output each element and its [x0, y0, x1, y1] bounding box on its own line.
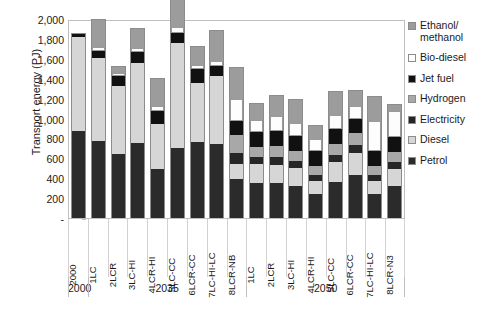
stacked-bar — [308, 125, 323, 219]
legend-label: Electricity — [420, 114, 465, 126]
legend-item: Jet fuel — [408, 73, 491, 85]
bar-segment-diesel — [309, 181, 322, 194]
bar-segment-diesel — [151, 124, 164, 169]
bar-segment-petrol — [72, 131, 85, 218]
bar-segment-hydrogen — [349, 133, 362, 145]
y-axis-tick-label: 600 — [46, 154, 64, 164]
stacked-bar — [269, 95, 284, 218]
x-axis-tick-group: 5LC-CC — [170, 219, 185, 277]
stacked-bar — [288, 99, 303, 218]
bar-segment-diesel — [368, 181, 381, 194]
x-axis-separator — [326, 219, 327, 277]
x-axis-tick-group: 4LCR-HI — [308, 219, 323, 277]
stacked-bar — [130, 28, 145, 218]
y-axis-tick-labels: -2004006008001,0001,2001,4001,6001,8002,… — [18, 12, 64, 227]
legend-swatch-icon — [408, 54, 416, 62]
legend-item: Electricity — [408, 114, 491, 126]
bar-segment-bio-diesel — [309, 139, 322, 151]
bar-series-group — [69, 21, 404, 218]
x-axis-tick-group: 7LC-HI-LC — [368, 219, 383, 277]
stacked-bar — [348, 90, 363, 218]
bar-segment-electricity — [250, 157, 263, 164]
bar-segment-jet-fuel — [388, 137, 401, 152]
legend-swatch-icon — [408, 116, 416, 124]
bar-segment-ethanol-methanol — [250, 104, 263, 120]
x-axis-separator — [286, 219, 287, 277]
y-axis-tick-label: - — [61, 214, 65, 224]
bar-segment-jet-fuel — [250, 132, 263, 147]
bar-segment-ethanol-methanol — [329, 92, 342, 115]
stacked-bar — [328, 91, 343, 218]
x-axis-separator — [108, 219, 109, 277]
bar-segment-petrol — [368, 194, 381, 218]
bar-segment-jet-fuel — [131, 52, 144, 63]
bar-segment-petrol — [309, 194, 322, 218]
bar-segment-hydrogen — [230, 135, 243, 153]
x-axis-tick-group: 4LCR-HI — [150, 219, 165, 277]
bar-segment-jet-fuel — [368, 151, 381, 166]
bar-segment-ethanol-methanol — [171, 0, 184, 27]
bar-segment-hydrogen — [309, 166, 322, 175]
bar-segment-petrol — [349, 175, 362, 218]
bar-segment-hydrogen — [368, 166, 381, 175]
bar-segment-hydrogen — [250, 147, 263, 157]
bar-segment-ethanol-methanol — [151, 79, 164, 106]
bar-segment-jet-fuel — [171, 33, 184, 43]
bar-segment-diesel — [230, 164, 243, 179]
y-axis-tick-label: 1,400 — [38, 75, 64, 85]
legend-swatch-icon — [408, 136, 416, 144]
bar-segment-diesel — [72, 37, 85, 132]
bar-segment-jet-fuel — [329, 129, 342, 144]
stacked-bar — [229, 67, 244, 218]
bar-segment-ethanol-methanol — [92, 20, 105, 47]
x-axis-separator — [266, 219, 267, 277]
bar-segment-jet-fuel — [270, 131, 283, 146]
legend-label: Ethanol/ methanol — [420, 20, 491, 43]
bar-segment-petrol — [210, 144, 223, 218]
stacked-bar — [91, 19, 106, 218]
bar-segment-ethanol-methanol — [309, 126, 322, 140]
x-axis-group-2035: 2035 — [88, 277, 247, 303]
legend-swatch-icon — [408, 95, 416, 103]
stacked-bar — [71, 33, 86, 218]
y-axis-tick-label: 2,000 — [38, 15, 64, 25]
bar-segment-hydrogen — [388, 152, 401, 162]
bar-segment-diesel — [131, 63, 144, 144]
bar-segment-bio-diesel — [349, 106, 362, 119]
x-axis-group-label: 2035 — [88, 282, 247, 294]
y-axis-tick-label: 800 — [46, 134, 64, 144]
bar-segment-diesel — [329, 162, 342, 182]
bar-segment-bio-diesel — [230, 99, 243, 121]
legend-label: Diesel — [420, 134, 449, 146]
x-axis-group-2000: 2000 — [68, 277, 88, 303]
x-axis-tick-group: 3LC-HI — [130, 219, 145, 277]
legend-label: Petrol — [420, 155, 447, 167]
x-axis-separator — [127, 219, 128, 277]
bar-segment-jet-fuel — [289, 136, 302, 151]
x-axis-separator — [404, 219, 405, 277]
x-axis-tick-group: 7LC-HI-LC — [209, 219, 224, 277]
bar-segment-diesel — [210, 76, 223, 145]
bar-segment-petrol — [191, 142, 204, 218]
x-axis-separator — [346, 219, 347, 277]
x-axis-group-label: 2050 — [246, 282, 405, 294]
legend-item: Diesel — [408, 134, 491, 146]
stacked-bar — [190, 46, 205, 218]
stacked-bar — [209, 30, 224, 218]
x-axis-tick-group: 5LC-CC — [328, 219, 343, 277]
legend-label: Jet fuel — [420, 73, 454, 85]
x-axis-separator — [227, 219, 228, 277]
plot-area — [68, 20, 405, 219]
bar-segment-jet-fuel — [309, 151, 322, 166]
bar-segment-diesel — [112, 86, 125, 155]
bar-segment-petrol — [289, 186, 302, 218]
bar-segment-electricity — [329, 155, 342, 162]
y-axis-tick-label: 1,800 — [38, 35, 64, 45]
bar-segment-bio-diesel — [289, 123, 302, 137]
x-axis-tick-labels: 20001LC2LCR3LC-HI4LCR-HI5LC-CC6LCR-CC7LC… — [68, 219, 405, 277]
legend-item: Bio-diesel — [408, 52, 491, 64]
x-axis-tick-group: 3LC-HI — [288, 219, 303, 277]
stacked-bar — [249, 103, 264, 218]
x-axis-group-divider — [68, 277, 69, 297]
bar-segment-diesel — [349, 153, 362, 175]
